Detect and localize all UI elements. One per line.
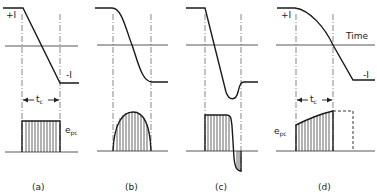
epc-label: epc [274, 126, 287, 138]
panel-c: (c) [186, 8, 258, 192]
panel-a: +I -I tc epc (a) [3, 8, 79, 192]
switching-waveforms-diagram: +I -I tc epc (a) [0, 0, 377, 195]
time-label: Time [345, 31, 368, 41]
caption-b: (b) [125, 182, 138, 192]
current-waveform [277, 8, 375, 80]
minus-i-label: -I [363, 70, 369, 80]
voltage-pulse [296, 111, 333, 151]
minus-i-label: -I [66, 70, 72, 80]
plus-i-label: +I [281, 10, 291, 20]
panel-b: (b) [95, 8, 168, 192]
plus-i-label: +I [6, 10, 16, 20]
voltage-pulse-continuation [333, 111, 353, 151]
epc-label: epc [65, 125, 78, 137]
current-waveform [186, 8, 258, 99]
caption-c: (c) [215, 182, 227, 192]
caption-d: (d) [318, 182, 331, 192]
caption-a: (a) [32, 182, 45, 192]
panel-d: +I Time -I tc epc (d) [274, 8, 375, 192]
